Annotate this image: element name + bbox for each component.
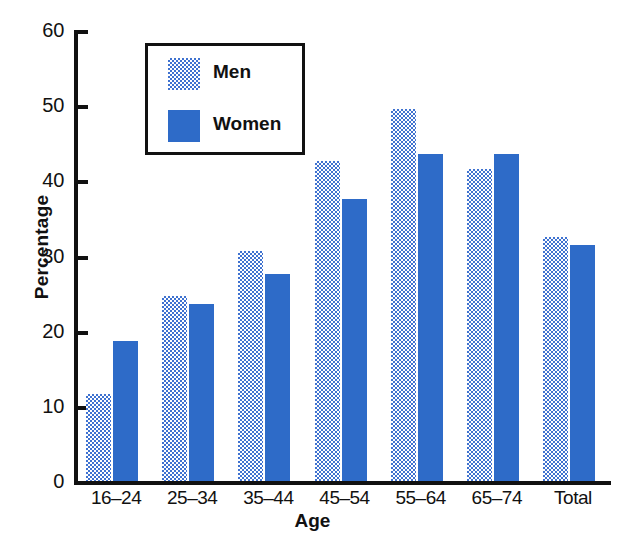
y-tick-label: 60 xyxy=(8,19,64,42)
y-tick-label: 0 xyxy=(8,470,64,493)
bar-men-6 xyxy=(543,237,568,483)
bar-men-0 xyxy=(86,394,111,483)
y-tick-label: 30 xyxy=(8,245,64,268)
bar-women-4 xyxy=(418,154,443,483)
bar-chart: Percentage 0102030405060 16–2425–3435–44… xyxy=(0,0,625,536)
bar-women-2 xyxy=(265,274,290,483)
legend-item-men: Men xyxy=(148,54,302,94)
y-tick-label: 10 xyxy=(8,395,64,418)
bar-women-0 xyxy=(113,341,138,483)
y-tick-label: 20 xyxy=(8,320,64,343)
bar-women-1 xyxy=(189,304,214,483)
y-tick-label: 40 xyxy=(8,169,64,192)
bar-men-4 xyxy=(391,109,416,483)
bar-men-1 xyxy=(162,296,187,483)
x-axis-line xyxy=(74,481,611,485)
chart-legend: Men Women xyxy=(145,43,305,155)
bar-men-3 xyxy=(315,161,340,483)
women-swatch-icon xyxy=(168,110,200,142)
legend-label-men: Men xyxy=(213,61,251,83)
legend-item-women: Women xyxy=(148,106,302,146)
y-tick-label: 50 xyxy=(8,94,64,117)
bar-women-3 xyxy=(342,199,367,483)
bar-men-2 xyxy=(238,251,263,483)
legend-label-women: Women xyxy=(213,113,281,135)
bar-women-5 xyxy=(494,154,519,483)
bar-men-5 xyxy=(467,169,492,483)
x-tick-label: Total xyxy=(528,487,618,509)
bar-women-6 xyxy=(570,245,595,483)
x-axis-label: Age xyxy=(0,510,625,532)
men-swatch-icon xyxy=(168,58,200,90)
